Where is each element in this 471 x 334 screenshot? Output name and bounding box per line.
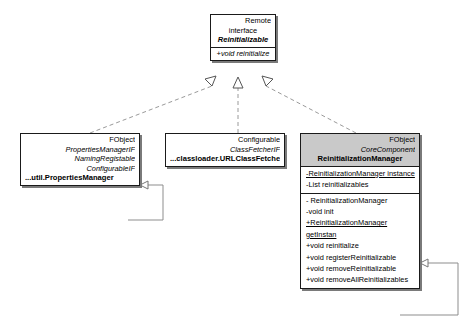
realization-url-class-fetcher-edge	[233, 77, 243, 133]
stereotype-fobject-manager: FObject	[305, 135, 415, 145]
interface-configurable-if: ConfigurableIF	[25, 164, 135, 174]
operations-reinitializable: +void reinitialize	[211, 47, 275, 61]
class-box-reinitialization-manager[interactable]: FObject CoreComponent ReinitializationMa…	[300, 133, 420, 289]
realization-properties-manager-edge	[90, 76, 216, 133]
operation-get-instance: +ReinitializationManager getInstan	[305, 217, 415, 240]
self-association-properties-manager-edge	[128, 181, 163, 220]
operation-register-reinitializable: +void registerReinitializable	[305, 252, 415, 263]
interface-properties-manager-if: PropertiesManagerIF	[25, 145, 135, 155]
stereotype-interface: interface	[215, 26, 271, 36]
operations-reinitialization-manager: - ReinitializationManager -void init +Re…	[301, 193, 419, 288]
uml-class-diagram: Remote interface Reinitializable +void r…	[0, 0, 471, 334]
interface-class-fetcher-if: ClassFetcherIF	[170, 145, 280, 155]
operation-constructor: - ReinitializationManager	[305, 195, 415, 206]
class-box-reinitializable[interactable]: Remote interface Reinitializable +void r…	[210, 14, 276, 61]
stereotype-core-component: CoreComponent	[305, 145, 415, 155]
class-box-properties-manager[interactable]: FObject PropertiesManagerIF NamingRegist…	[20, 133, 140, 186]
operation-reinitialize: +void reinitialize	[305, 240, 415, 251]
operation-reinitialize: +void reinitialize	[215, 49, 271, 59]
class-header-reinitializable: Remote interface Reinitializable	[211, 15, 275, 47]
class-name-reinitialization-manager: ReinitializationManager	[305, 154, 415, 164]
class-header-url-class-fetcher: Configurable ClassFetcherIF ...classload…	[166, 134, 284, 166]
attribute-reinitializables: -List reinitializables	[305, 179, 415, 190]
attributes-reinitialization-manager: -ReinitializationManager instance -List …	[301, 166, 419, 193]
interface-naming-registable: NamingRegistable	[25, 154, 135, 164]
operation-remove-reinitializable: +void removeReinitializable	[305, 263, 415, 274]
operation-remove-all-reinitializables: +void removeAllReinitializables	[305, 274, 415, 285]
class-name-reinitializable: Reinitializable	[215, 35, 271, 45]
operation-init: -void init	[305, 206, 415, 217]
attribute-instance: -ReinitializationManager instance	[305, 168, 415, 179]
class-header-reinitialization-manager: FObject CoreComponent ReinitializationMa…	[301, 134, 419, 166]
class-box-url-class-fetcher[interactable]: Configurable ClassFetcherIF ...classload…	[165, 133, 285, 167]
class-name-properties-manager: ...util.PropertiesManager	[25, 173, 135, 183]
realization-reinitialization-manager-edge	[262, 76, 356, 133]
class-name-url-class-fetcher: ...classloader.URLClassFetcher	[170, 154, 280, 164]
stereotype-remote: Remote	[215, 16, 271, 26]
stereotype-fobject: FObject	[25, 135, 135, 145]
class-header-properties-manager: FObject PropertiesManagerIF NamingRegist…	[21, 134, 139, 185]
stereotype-configurable: Configurable	[170, 135, 280, 145]
